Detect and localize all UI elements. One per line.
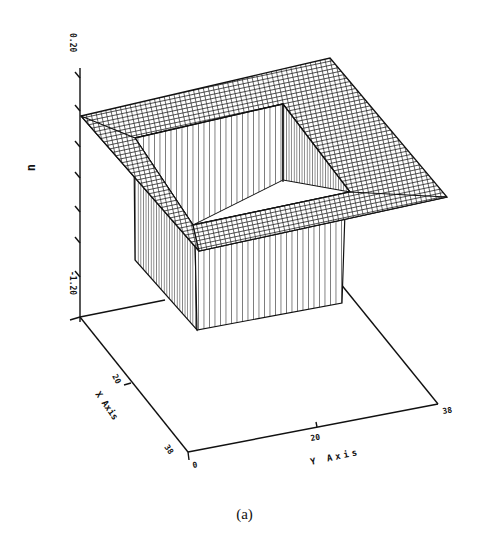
- origin-label: 0: [192, 460, 198, 470]
- y-end-label: 38: [442, 405, 453, 416]
- y-mid-label: 20: [310, 432, 321, 443]
- surface-plot: 0.20 -1.20 u 20 X Axis 38 0 20 Y Axis 38: [0, 0, 489, 500]
- x-end-label: 38: [162, 443, 175, 456]
- x-axis-label: X Axis: [93, 389, 120, 421]
- z-bottom-label: -1.20: [68, 271, 77, 295]
- figure-caption: (a): [0, 506, 489, 523]
- z-axis-label: u: [25, 164, 39, 171]
- x-mid-label: 20: [110, 373, 123, 386]
- z-top-label: 0.20: [68, 33, 77, 52]
- y-axis-label: Y Axis: [309, 447, 360, 467]
